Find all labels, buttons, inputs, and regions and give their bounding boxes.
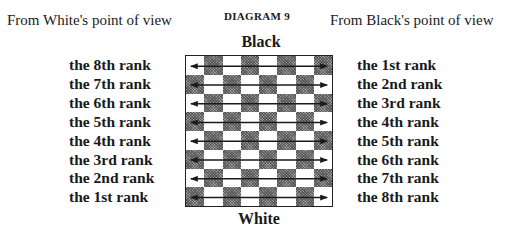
rank-arrows (186, 56, 332, 206)
chessboard (185, 55, 333, 207)
rank-label: the 1st rank (357, 56, 442, 75)
rank-label: the 6th rank (69, 94, 154, 113)
white-side-label: White (2, 210, 514, 228)
black-rank-labels: the 1st rank the 2nd rank the 3rd rank t… (357, 56, 442, 207)
rank-label: the 3rd rank (357, 94, 442, 113)
rank-label: the 8th rank (69, 56, 154, 75)
rank-label: the 4th rank (69, 132, 154, 151)
rank-label: the 7th rank (69, 75, 154, 94)
rank-label: the 7th rank (357, 169, 442, 188)
black-point-of-view-header: From Black's point of view (330, 12, 494, 29)
black-side-label: Black (4, 33, 514, 51)
rank-label: the 5th rank (69, 113, 154, 132)
white-rank-labels: the 8th rank the 7th rank the 6th rank t… (69, 56, 154, 207)
rank-label: the 2nd rank (69, 169, 154, 188)
white-point-of-view-header: From White's point of view (7, 12, 172, 29)
rank-label: the 4th rank (357, 113, 442, 132)
rank-label: the 1st rank (69, 188, 154, 207)
rank-label: the 2nd rank (357, 75, 442, 94)
rank-label: the 3rd rank (69, 151, 154, 170)
rank-label: the 5th rank (357, 132, 442, 151)
rank-label: the 8th rank (357, 188, 442, 207)
rank-label: the 6th rank (357, 151, 442, 170)
